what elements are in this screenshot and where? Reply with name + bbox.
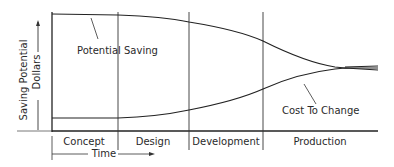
potential-saving-leader: [91, 18, 98, 39]
potential-saving-label: Potential Saving: [77, 45, 158, 56]
y-axis-label: Saving Potential Dollars: [18, 20, 42, 130]
phase-label-design: Design: [136, 136, 171, 147]
cost-to-change-leader: [304, 84, 316, 104]
phase-label-concept: Concept: [63, 136, 104, 147]
cost-to-change-label: Cost To Change: [282, 105, 359, 116]
saving-vs-cost-diagram: Saving Potential Dollars Potential Savin…: [0, 0, 394, 167]
curve-tail: [345, 66, 378, 67]
y-axis-label-line1: Saving Potential: [18, 40, 29, 121]
y-axis-arrow-head: [36, 20, 40, 26]
time-label: Time: [91, 148, 116, 159]
potential-saving-curve: [52, 14, 378, 68]
phase-label-production: Production: [293, 136, 346, 147]
y-axis-label-line2: Dollars: [31, 55, 42, 90]
phase-label-development: Development: [192, 136, 259, 147]
time-arrow-head: [149, 152, 155, 156]
